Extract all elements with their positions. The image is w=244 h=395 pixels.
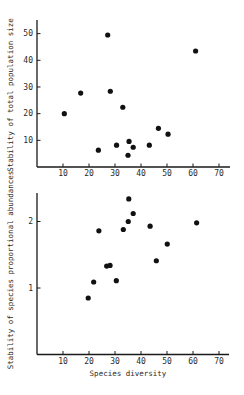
x-tick-label: 20 <box>84 169 94 178</box>
data-point <box>147 143 152 148</box>
data-point <box>165 242 170 247</box>
y-tick-label: 1 <box>28 284 33 293</box>
data-point <box>154 258 159 263</box>
figure-svg: 102030405060701020304050Stability of tot… <box>0 0 244 395</box>
data-point <box>96 148 101 153</box>
data-point <box>105 32 110 37</box>
data-point <box>148 224 153 229</box>
plot-population-stability: 102030405060701020304050Stability of tot… <box>6 18 230 178</box>
data-point <box>126 139 131 144</box>
data-point <box>114 143 119 148</box>
y-axis-label: Stability of total population size <box>6 18 15 172</box>
x-tick-label: 30 <box>110 169 120 178</box>
x-tick-label: 10 <box>58 169 68 178</box>
plot-proportional-abundance-stability: 1020304050607012Stability of species pro… <box>6 171 229 378</box>
data-point <box>193 48 198 53</box>
data-point <box>107 263 112 268</box>
data-point <box>86 295 91 300</box>
x-tick-label: 70 <box>214 357 224 366</box>
x-tick-label: 50 <box>162 357 172 366</box>
y-tick-label: 20 <box>23 109 33 118</box>
x-tick-label: 70 <box>214 169 224 178</box>
y-tick-label: 10 <box>23 136 33 145</box>
y-axis-label: Stability of species proportional abunda… <box>6 171 15 370</box>
x-tick-label: 40 <box>136 357 146 366</box>
data-point <box>121 227 126 232</box>
x-tick-label: 50 <box>162 169 172 178</box>
data-point <box>126 219 131 224</box>
x-tick-label: 10 <box>58 357 68 366</box>
data-point <box>165 132 170 137</box>
data-point <box>131 145 136 150</box>
y-tick-label: 30 <box>23 83 33 92</box>
data-point <box>62 111 67 116</box>
data-point <box>194 220 199 225</box>
data-point <box>156 126 161 131</box>
data-point <box>78 91 83 96</box>
x-axis-label: Species diversity <box>90 369 167 378</box>
data-point <box>120 105 125 110</box>
data-point <box>108 89 113 94</box>
data-point <box>96 228 101 233</box>
data-point <box>91 279 96 284</box>
data-point <box>126 196 131 201</box>
data-point <box>114 278 119 283</box>
x-tick-label: 60 <box>188 357 198 366</box>
x-tick-label: 60 <box>188 169 198 178</box>
data-point <box>131 211 136 216</box>
y-tick-label: 2 <box>28 217 33 226</box>
x-tick-label: 40 <box>136 169 146 178</box>
figure: 102030405060701020304050Stability of tot… <box>0 0 244 395</box>
y-tick-label: 50 <box>23 29 33 38</box>
x-tick-label: 30 <box>110 357 120 366</box>
data-point <box>125 153 130 158</box>
y-tick-label: 40 <box>23 56 33 65</box>
x-tick-label: 20 <box>84 357 94 366</box>
